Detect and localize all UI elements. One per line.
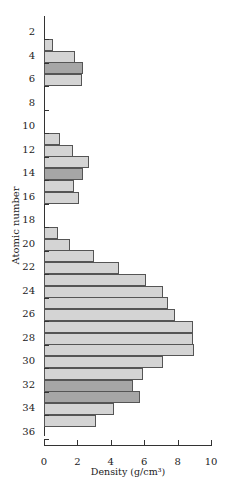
y-tick <box>44 39 49 40</box>
x-tick-label: 10 <box>201 456 221 467</box>
bar-element-13 <box>44 156 89 168</box>
bar-element-20 <box>44 239 70 251</box>
x-tick <box>178 440 179 446</box>
y-tick <box>44 180 49 181</box>
y-tick-label: 36 <box>13 426 35 437</box>
bar-element-21 <box>44 250 94 262</box>
x-axis-label: Density (g/cm³) <box>44 466 212 477</box>
bar-element-32 <box>44 380 133 392</box>
y-tick-label: 6 <box>13 73 35 84</box>
y-tick-label: 28 <box>13 332 35 343</box>
x-tick-label: 6 <box>134 456 154 467</box>
bar-element-26 <box>44 309 175 321</box>
bar-element-33 <box>44 391 140 403</box>
y-tick <box>44 110 49 111</box>
x-tick-label: 2 <box>67 456 87 467</box>
bar-element-27 <box>44 321 193 333</box>
bar-element-24 <box>44 286 163 298</box>
bar-element-34 <box>44 403 114 415</box>
y-tick <box>44 298 49 299</box>
x-tick-label: 4 <box>101 456 121 467</box>
bar-element-22 <box>44 262 119 274</box>
y-tick-label: 2 <box>13 26 35 37</box>
y-tick <box>44 227 49 228</box>
bar-element-12 <box>44 145 73 157</box>
bar-element-11 <box>44 133 60 145</box>
y-tick-label: 8 <box>13 97 35 108</box>
y-tick-label: 18 <box>13 214 35 225</box>
bar-element-6 <box>44 74 82 86</box>
x-axis <box>44 445 212 446</box>
y-tick <box>44 368 49 369</box>
bar-element-35 <box>44 415 96 427</box>
y-tick-label: 32 <box>13 379 35 390</box>
y-tick <box>44 392 49 393</box>
y-tick <box>44 133 49 134</box>
y-tick-label: 26 <box>13 308 35 319</box>
y-tick-label: 10 <box>13 120 35 131</box>
y-tick-label: 22 <box>13 261 35 272</box>
y-tick-label: 30 <box>13 355 35 366</box>
bar-element-19 <box>44 227 58 239</box>
y-tick-label: 12 <box>13 144 35 155</box>
x-tick <box>44 440 45 446</box>
bar-element-4 <box>44 51 75 63</box>
y-tick <box>44 251 49 252</box>
y-tick <box>44 157 49 158</box>
x-tick <box>77 440 78 446</box>
y-tick-label: 4 <box>13 50 35 61</box>
y-tick <box>44 86 49 87</box>
x-tick-label: 0 <box>34 456 54 467</box>
density-bar-chart: Atomic number Density (g/cm³) 2468101214… <box>0 0 226 494</box>
y-tick <box>44 321 49 322</box>
bar-element-15 <box>44 180 74 192</box>
bar-element-31 <box>44 368 143 380</box>
y-tick <box>44 345 49 346</box>
y-tick-label: 34 <box>13 402 35 413</box>
x-tick <box>211 440 212 446</box>
y-tick-label: 16 <box>13 191 35 202</box>
y-tick <box>44 415 49 416</box>
y-tick <box>44 63 49 64</box>
bar-element-28 <box>44 333 193 345</box>
y-tick-label: 24 <box>13 285 35 296</box>
y-tick <box>44 274 49 275</box>
x-tick <box>111 440 112 446</box>
y-tick-label: 14 <box>13 167 35 178</box>
bar-element-14 <box>44 168 83 180</box>
bar-element-29 <box>44 344 194 356</box>
x-tick <box>144 440 145 446</box>
bar-element-5 <box>44 62 83 74</box>
x-tick-label: 8 <box>168 456 188 467</box>
bar-element-25 <box>44 297 168 309</box>
y-tick <box>44 204 49 205</box>
y-tick-label: 20 <box>13 238 35 249</box>
bar-element-16 <box>44 192 79 204</box>
bar-element-23 <box>44 274 146 286</box>
bar-element-3 <box>44 39 53 51</box>
bar-element-30 <box>44 356 163 368</box>
